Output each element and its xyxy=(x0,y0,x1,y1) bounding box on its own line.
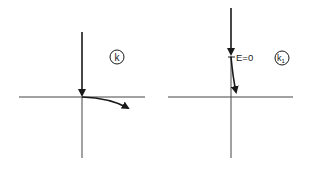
panel-label: k xyxy=(115,52,121,63)
panel-label-subscript: 1 xyxy=(282,58,286,64)
panel-k1: E=0 k1 xyxy=(168,8,293,158)
diagram-canvas: k E=0 k1 xyxy=(0,0,309,169)
outgoing-trajectory-curve xyxy=(82,97,128,108)
energy-zero-label: E=0 xyxy=(236,52,253,63)
panel-k: k xyxy=(19,32,145,158)
panel-label: k1 xyxy=(277,53,286,64)
